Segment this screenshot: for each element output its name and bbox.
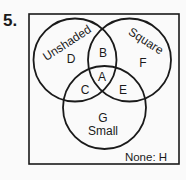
- region-e: E: [119, 83, 127, 97]
- small-label: Small: [88, 124, 118, 138]
- region-f: F: [139, 56, 146, 70]
- square-label: Square: [126, 25, 166, 58]
- none-label: None: H: [125, 151, 167, 163]
- problem-number: 5.: [3, 11, 17, 30]
- region-c: C: [81, 83, 90, 97]
- venn-diagram: 5. Unshaded Square D B F A C E G Small N…: [0, 0, 186, 180]
- region-b: B: [99, 46, 107, 60]
- region-d: D: [67, 52, 76, 66]
- region-g: G: [98, 111, 107, 125]
- region-a: A: [98, 70, 106, 84]
